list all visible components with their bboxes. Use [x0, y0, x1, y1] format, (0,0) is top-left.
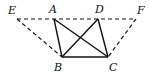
label-A: A [48, 3, 57, 16]
label-E: E [7, 4, 16, 17]
label-B: B [53, 61, 62, 74]
label-C: C [109, 61, 118, 74]
segment-BD [62, 19, 98, 57]
label-D: D [94, 3, 104, 16]
label-F: F [136, 4, 145, 17]
segment-FC [108, 19, 136, 57]
geometry-diagram: E A D F B C [0, 0, 149, 76]
